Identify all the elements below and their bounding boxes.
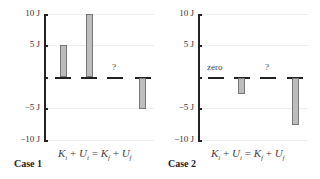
tick-m10 (44, 140, 48, 142)
bar-uf (139, 78, 146, 109)
ylabel-10: 10 J (4, 8, 40, 18)
bar-ki (60, 45, 67, 77)
energy-equation: Ki + Ui = Kf + Uf (58, 147, 132, 162)
baseline-ki (55, 77, 71, 79)
baseline-kf (260, 77, 276, 79)
ylabel-m5: −5 J (4, 102, 40, 112)
bar-ui (86, 14, 93, 77)
case-1-title: Case 1 (14, 158, 42, 169)
tick-10 (198, 14, 202, 16)
energy-equation: Ki + Ui = Kf + Uf (211, 147, 285, 162)
bar-ui (238, 78, 245, 94)
ylabel-m5: −5 J (158, 102, 194, 112)
case-1-panel: 10 J 5 J −5 J −10 J ? Ki + Ui = Kf + Uf … (0, 0, 160, 179)
baseline-ki (208, 77, 224, 79)
tick-0 (44, 77, 48, 79)
gridline-5 (200, 45, 308, 46)
bar-uf (292, 78, 299, 125)
ylabel-5: 5 J (158, 39, 194, 49)
gridline-m5 (46, 108, 154, 109)
gridline-m10 (200, 140, 308, 141)
tick-10 (44, 14, 48, 16)
tick-m5 (44, 108, 48, 110)
tick-5 (198, 45, 202, 47)
zero-ki-label: zero (207, 62, 223, 72)
case-2-title: Case 2 (168, 158, 196, 169)
ylabel-10: 10 J (158, 8, 194, 18)
tick-m5 (198, 108, 202, 110)
ylabel-m10: −10 J (4, 134, 40, 144)
ylabel-m10: −10 J (158, 134, 194, 144)
baseline-kf (107, 77, 123, 79)
tick-5 (44, 45, 48, 47)
unknown-kf-label: ? (265, 62, 269, 72)
unknown-kf-label: ? (112, 62, 116, 72)
baseline-ui (81, 77, 97, 79)
gridline-10 (46, 14, 154, 15)
tick-0 (198, 77, 202, 79)
gridline-m10 (46, 140, 154, 141)
ylabel-5: 5 J (4, 39, 40, 49)
gridline-10 (200, 14, 308, 15)
tick-m10 (198, 140, 202, 142)
case-2-panel: 10 J 5 J −5 J −10 J zero ? Ki + Ui = Kf … (160, 0, 320, 179)
